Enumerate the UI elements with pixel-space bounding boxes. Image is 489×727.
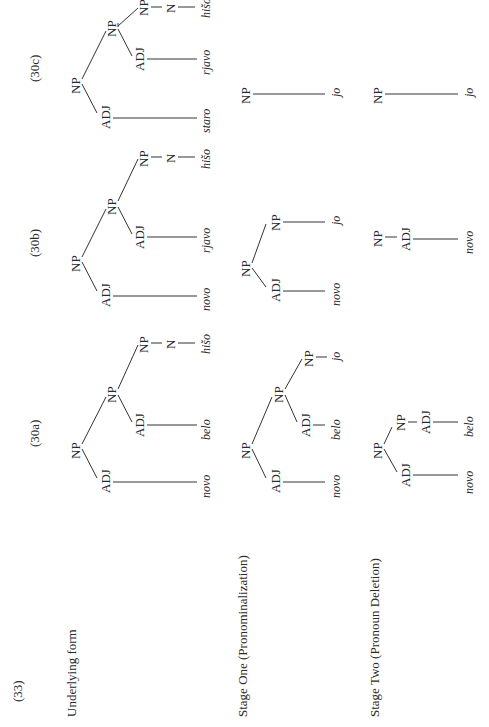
tree-30b-underlying: NP ADJ novo NP ADJ rjavo NP N hišo [68,149,213,311]
node-n: N [163,339,178,349]
tree-30b-stage-two: NP ADJ novo [370,227,476,254]
word-hiso: hišo [199,149,213,169]
node-adj: ADJ [298,413,313,437]
node-np-mid: NP [393,414,408,431]
node-np-root: NP [68,77,83,94]
word-jo: jo [462,88,476,99]
node-adj: ADJ [398,463,413,487]
word-jo: jo [329,216,343,227]
node-n: N [163,3,178,13]
node-np-root: NP [238,260,253,277]
node-adj: ADJ [132,413,147,437]
node-np-mid: NP [271,386,286,403]
word-hiso: hišo [199,0,213,18]
node-np-root: NP [370,442,385,459]
tree-30a-stage-one: NP ADJ novo NP ADJ belo NP jo [238,350,343,498]
word-novo: novo [199,288,213,311]
word-novo: novo [199,475,213,498]
node-np-root: NP [68,442,83,459]
tree-30c-stage-one: NP jo [238,87,343,104]
node-adj: ADJ [132,225,147,249]
word-belo: belo [199,419,213,440]
node-adj: ADJ [268,469,283,493]
word-rjavo: rjavo [199,228,213,253]
word-rjavo: rjavo [199,50,213,75]
node-np-low: NP [136,150,151,167]
word-hiso: hišo [199,334,213,354]
node-np-mid: NP [104,198,119,215]
node-adj: ADJ [98,283,113,307]
node-np-root: NP [370,230,385,247]
node-adj: ADJ [98,105,113,129]
node-adj: ADJ [132,47,147,71]
node-adj: ADJ [98,469,113,493]
node-n: N [163,153,178,163]
word-belo: belo [329,419,343,440]
node-np-pron: NP [268,214,283,231]
tree-30a-stage-two: NP ADJ novo NP ADJ belo [370,410,476,494]
node-np-root: NP [238,442,253,459]
word-novo: novo [462,471,476,494]
node-adj: ADJ [268,278,283,302]
node-np-low: NP [136,336,151,353]
word-novo: novo [329,283,343,306]
rotated-page: (33) Underlying form Stage One (Pronomin… [0,0,489,727]
tree-30c-underlying: NP ADJ staro NP ADJ rjavo NP N hišo [68,0,213,133]
node-adj: ADJ [418,410,433,434]
node-np-low: NP [301,350,316,367]
word-novo: novo [329,475,343,498]
node-np-root: NP [68,255,83,272]
word-belo: belo [462,416,476,437]
word-jo: jo [329,352,343,363]
node-adj: ADJ [398,227,413,251]
node-np-root: NP [370,87,385,104]
syntax-trees: NP ADJ novo NP ADJ belo NP N hišo NP ADJ [0,0,489,727]
node-np-root: NP [238,87,253,104]
word-staro: staro [199,109,213,133]
node-np-low: NP [136,0,151,16]
tree-30a-underlying: NP ADJ novo NP ADJ belo NP N hišo [68,334,213,498]
word-jo: jo [329,88,343,99]
tree-30b-stage-one: NP ADJ novo NP jo [238,214,343,306]
node-np-mid: NP [104,386,119,403]
word-novo: novo [462,231,476,254]
node-np-mid: NP [104,20,119,37]
tree-30c-stage-two: NP jo [370,87,476,104]
